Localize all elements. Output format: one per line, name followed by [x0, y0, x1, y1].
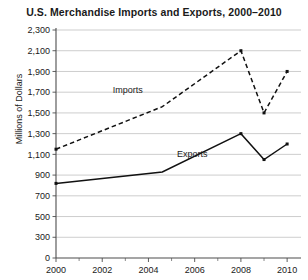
data-point-marker	[239, 132, 242, 135]
y-tick-label: 700	[35, 191, 50, 201]
y-tick-label: 1,900	[27, 67, 50, 77]
gridlines-group	[56, 30, 301, 237]
y-tick-label: 500	[35, 212, 50, 222]
series-label-exports: Exports	[177, 149, 208, 159]
x-axis-ticks-group: 200020022004200620082010	[46, 258, 297, 275]
data-point-marker	[263, 111, 266, 114]
series-line-exports	[56, 134, 287, 184]
y-tick-label: 0	[45, 253, 50, 263]
data-point-marker	[239, 49, 242, 52]
series-annotations-group: ImportsExports	[113, 85, 208, 159]
data-point-marker	[55, 148, 58, 151]
y-tick-label: 900	[35, 170, 50, 180]
chart-container: U.S. Merchandise Imports and Exports, 20…	[0, 0, 308, 280]
x-tick-label: 2006	[185, 265, 205, 275]
x-tick-label: 2000	[46, 265, 66, 275]
data-point-marker	[55, 182, 58, 185]
y-tick-label: 2,100	[27, 46, 50, 56]
series-group	[55, 49, 289, 185]
data-point-marker	[286, 70, 289, 73]
x-tick-label: 2002	[92, 265, 112, 275]
plot-area: 03005007009001,1001,3001,5001,7001,9002,…	[0, 0, 308, 280]
axes-group	[56, 28, 301, 258]
y-tick-label: 2,300	[27, 25, 50, 35]
x-tick-label: 2004	[138, 265, 158, 275]
x-tick-label: 2010	[277, 265, 297, 275]
y-tick-label: 1,100	[27, 150, 50, 160]
data-point-marker	[263, 158, 266, 161]
y-tick-label: 300	[35, 232, 50, 242]
x-tick-label: 2008	[231, 265, 251, 275]
y-axis-ticks-group: 03005007009001,1001,3001,5001,7001,9002,…	[27, 25, 56, 263]
y-tick-label: 1,300	[27, 129, 50, 139]
series-line-imports	[56, 51, 287, 149]
y-tick-label: 1,500	[27, 108, 50, 118]
data-point-marker	[286, 143, 289, 146]
y-tick-label: 1,700	[27, 87, 50, 97]
series-label-imports: Imports	[113, 85, 144, 95]
